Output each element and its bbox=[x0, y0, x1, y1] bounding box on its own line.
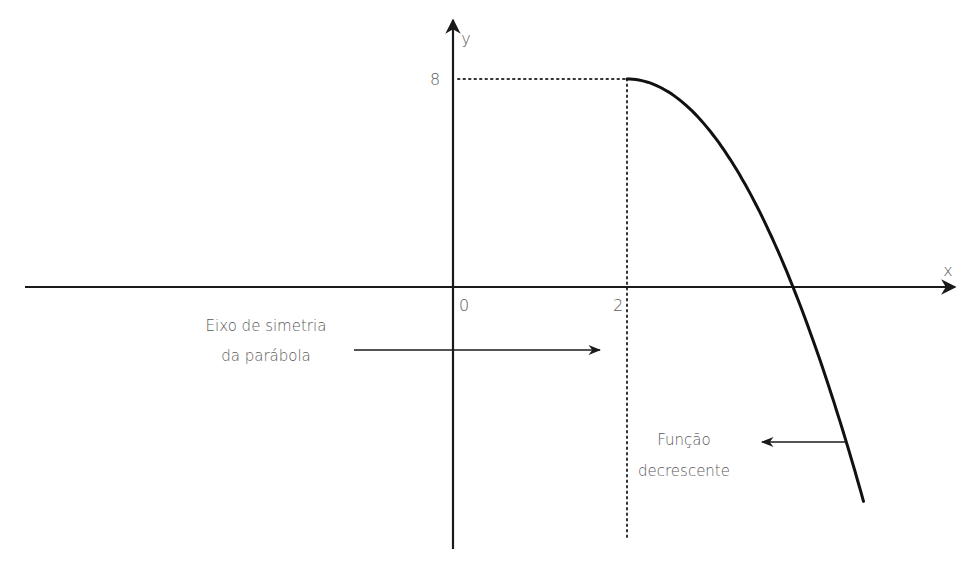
y-tick-label-8: 8 bbox=[430, 70, 440, 89]
x-tick-label-0: 0 bbox=[459, 296, 469, 315]
parabola-diagram: x y 0 2 8 Eixo de simetria da parábola F… bbox=[0, 0, 976, 568]
decreasing-annotation-line-1: Função bbox=[657, 431, 710, 449]
y-axis-label: y bbox=[461, 29, 470, 48]
x-axis-label: x bbox=[943, 261, 952, 280]
symmetry-annotation-line-2: da parábola bbox=[221, 347, 311, 365]
symmetry-annotation-line-1: Eixo de simetria bbox=[206, 317, 327, 335]
x-tick-label-2: 2 bbox=[613, 296, 623, 315]
decreasing-annotation-line-2: decrescente bbox=[638, 462, 730, 480]
